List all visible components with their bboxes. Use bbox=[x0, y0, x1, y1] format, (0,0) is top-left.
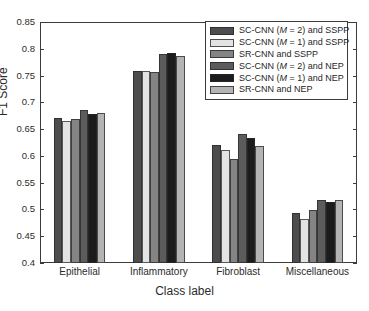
bar bbox=[88, 114, 97, 263]
bar bbox=[167, 53, 176, 263]
legend-swatch bbox=[210, 62, 234, 70]
bar bbox=[62, 121, 71, 263]
bar bbox=[221, 150, 230, 263]
y-tick-mark bbox=[353, 76, 357, 77]
y-tick-mark bbox=[40, 22, 44, 23]
bar bbox=[238, 134, 247, 263]
y-tick-mark bbox=[40, 76, 44, 77]
bar bbox=[300, 219, 309, 263]
y-tick-label: 0.85 bbox=[1, 17, 35, 26]
y-tick-mark bbox=[40, 49, 44, 50]
y-tick-mark bbox=[353, 183, 357, 184]
legend: SC-CNN (M = 2) and SSPPSC-CNN (M = 1) an… bbox=[205, 21, 348, 100]
x-tick-label: Fibroblast bbox=[199, 266, 278, 277]
y-tick-mark bbox=[353, 156, 357, 157]
y-tick-mark bbox=[353, 236, 357, 237]
figure-bar-chart: 0.40.450.50.550.60.650.70.750.80.85 Epit… bbox=[0, 0, 369, 311]
legend-item[interactable]: SC-CNN (M = 2) and SSPP bbox=[210, 25, 343, 37]
bar bbox=[54, 118, 63, 263]
bar bbox=[159, 54, 168, 263]
y-tick-mark bbox=[353, 102, 357, 103]
x-axis-title: Class label bbox=[0, 284, 369, 298]
y-tick-label: 0.8 bbox=[1, 44, 35, 53]
y-tick-label: 0.4 bbox=[1, 258, 35, 267]
bar bbox=[255, 146, 264, 263]
bar bbox=[150, 72, 159, 263]
x-tick-label: Inflammatory bbox=[119, 266, 198, 277]
bar bbox=[71, 119, 80, 263]
bar bbox=[292, 213, 301, 263]
bar bbox=[247, 138, 256, 263]
y-tick-mark bbox=[353, 22, 357, 23]
y-tick-label: 0.45 bbox=[1, 231, 35, 240]
legend-label: SC-CNN (M = 1) and SSPP bbox=[239, 38, 349, 47]
legend-label: SR-CNN and SSPP bbox=[239, 50, 318, 59]
y-tick-mark bbox=[353, 263, 357, 264]
legend-item[interactable]: SR-CNN and SSPP bbox=[210, 49, 343, 61]
bar bbox=[309, 210, 318, 263]
bar bbox=[326, 202, 335, 263]
y-axis-title: F1 Score bbox=[0, 67, 10, 116]
y-tick-mark bbox=[353, 129, 357, 130]
bar bbox=[230, 159, 239, 263]
y-tick-mark bbox=[353, 209, 357, 210]
legend-swatch bbox=[210, 50, 234, 58]
bar bbox=[97, 113, 106, 263]
bar bbox=[212, 145, 221, 263]
y-tick-label: 0.55 bbox=[1, 178, 35, 187]
legend-item[interactable]: SC-CNN (M = 1) and NEP bbox=[210, 72, 343, 84]
y-tick-mark bbox=[40, 156, 44, 157]
y-tick-mark bbox=[40, 263, 44, 264]
legend-label: SC-CNN (M = 1) and NEP bbox=[239, 74, 344, 83]
y-tick-mark bbox=[40, 209, 44, 210]
y-tick-label: 0.5 bbox=[1, 204, 35, 213]
legend-item[interactable]: SC-CNN (M = 1) and SSPP bbox=[210, 37, 343, 49]
bar bbox=[80, 110, 89, 263]
bar bbox=[142, 71, 151, 263]
y-tick-mark bbox=[40, 183, 44, 184]
legend-item[interactable]: SC-CNN (M = 2) and NEP bbox=[210, 60, 343, 72]
y-tick-mark bbox=[40, 236, 44, 237]
legend-swatch bbox=[210, 74, 234, 82]
legend-item[interactable]: SR-CNN and NEP bbox=[210, 84, 343, 96]
legend-swatch bbox=[210, 27, 234, 35]
y-tick-label: 0.65 bbox=[1, 124, 35, 133]
y-tick-label: 0.6 bbox=[1, 151, 35, 160]
legend-label: SR-CNN and NEP bbox=[239, 85, 313, 94]
x-tick-label: Miscellaneous bbox=[278, 266, 357, 277]
legend-swatch bbox=[210, 86, 234, 94]
bar bbox=[176, 56, 185, 263]
bar bbox=[317, 200, 326, 263]
y-tick-mark bbox=[40, 102, 44, 103]
x-tick-label: Epithelial bbox=[40, 266, 119, 277]
legend-swatch bbox=[210, 39, 234, 47]
legend-label: SC-CNN (M = 2) and SSPP bbox=[239, 26, 349, 35]
bar bbox=[335, 200, 344, 263]
bar bbox=[133, 71, 142, 263]
y-tick-mark bbox=[40, 129, 44, 130]
y-tick-mark bbox=[353, 49, 357, 50]
legend-label: SC-CNN (M = 2) and NEP bbox=[239, 62, 344, 71]
